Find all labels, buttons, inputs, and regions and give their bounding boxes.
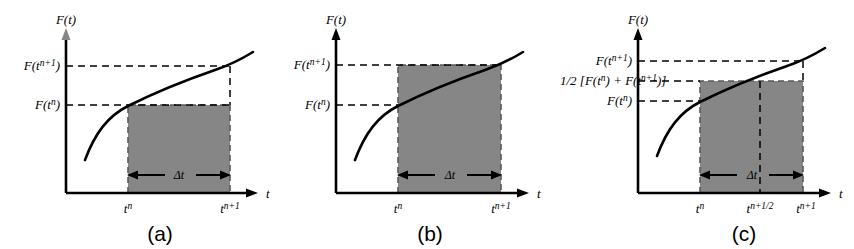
x-axis-title-a: t: [266, 186, 270, 201]
y-label-f-tn1-close-b: ): [325, 57, 330, 72]
y-label-average-close-c: )]: [656, 73, 666, 88]
y-label-f-tn-close-a: ): [55, 97, 60, 112]
y-label-f-tn-a: F(tn): [34, 97, 60, 112]
x-tick-tn1-c: tn+1: [796, 201, 816, 216]
y-label-f-tn-base-c: F(t: [606, 93, 623, 108]
y-axis-title-b: F(t): [325, 12, 346, 27]
y-axis-arrow-b: [332, 28, 341, 40]
x-axis-arrow-b: [517, 189, 529, 198]
y-label-f-tn-b: F(tn): [304, 97, 330, 112]
y-label-f-tn1-close-c: ): [627, 53, 632, 68]
y-label-f-tn1-c: F(tn+1): [595, 53, 632, 68]
x-tick-tn-sup-a: n: [127, 201, 132, 211]
x-axis-arrow-a: [246, 189, 258, 198]
x-tick-tn1-sup-a: n+1: [224, 201, 240, 211]
y-label-f-tn1-b: F(tn+1): [293, 57, 330, 72]
delta-t-label-a: Δt: [173, 168, 185, 182]
x-axis-title-b: t: [537, 186, 541, 201]
y-label-f-tn1-a: F(tn+1): [23, 58, 60, 73]
x-tick-tn-b: tn: [394, 201, 403, 216]
x-tick-tnhalf-c: tn+1/2: [747, 201, 774, 216]
panel-b-implicit-euler: Δt F(t) t F(tn+1) F(tn) tn tn+1 (b): [285, 0, 570, 249]
y-label-average-prefix-c: 1/2 [F(t: [560, 73, 601, 88]
y-label-f-tn1-base-c: F(t: [595, 53, 612, 68]
y-label-f-tn1-sup-a: n+1: [40, 58, 56, 68]
y-label-f-tn-c: F(tn): [606, 93, 632, 108]
y-label-f-tn-base-b: F(t: [304, 97, 321, 112]
y-label-average-sup2-c: n+1: [641, 73, 657, 83]
y-axis-arrow-a: [62, 28, 71, 40]
panel-caption-c: (c): [732, 222, 757, 245]
y-label-f-tn-close-b: ): [325, 97, 330, 112]
panel-caption-b: (b): [417, 222, 443, 245]
x-tick-tn1-sup-b: n+1: [495, 201, 511, 211]
x-tick-tnhalf-sup-c: n+1/2: [750, 201, 774, 211]
x-tick-tn-sup-b: n: [397, 201, 402, 211]
x-tick-tn1-b: tn+1: [491, 201, 511, 216]
y-label-average-c: 1/2 [F(tn) + F(tn+1)]: [560, 73, 666, 88]
y-label-f-tn-close-c: ): [627, 93, 632, 108]
y-label-f-tn1-sup-c: n+1: [612, 53, 628, 63]
y-axis-arrow-c: [634, 28, 643, 40]
y-label-f-tn-base-a: F(t: [34, 97, 51, 112]
figure-three-integration-schemes: Δt F(t) t F(tn+1) F(tn) tn tn+1 (a): [0, 0, 854, 249]
x-tick-tn1-sup-c: n+1: [800, 201, 816, 211]
x-axis-arrow-c: [819, 189, 831, 198]
panel-a-explicit-euler: Δt F(t) t F(tn+1) F(tn) tn tn+1 (a): [0, 0, 285, 249]
panel-caption-a: (a): [147, 222, 173, 245]
y-label-f-tn1-base-b: F(t: [293, 57, 310, 72]
x-tick-tn1-a: tn+1: [220, 201, 240, 216]
y-label-f-tn1-close-a: ): [55, 58, 60, 73]
y-label-f-tn1-sup-b: n+1: [310, 57, 326, 67]
y-label-average-mid-c: ) + F(t: [605, 73, 642, 88]
delta-t-label-c: Δt: [746, 168, 758, 182]
x-tick-tn-a: tn: [124, 201, 133, 216]
y-axis-title-a: F(t): [55, 12, 76, 27]
panel-c-crank-nicolson: Δt F(t) t F(tn+1) 1/2 [F(tn) + F(tn+1)] …: [569, 0, 854, 249]
x-tick-tn-sup-c: n: [699, 201, 704, 211]
y-axis-title-c: F(t): [627, 12, 648, 27]
x-tick-tn-c: tn: [696, 201, 705, 216]
y-label-f-tn1-base-a: F(t: [23, 58, 40, 73]
delta-t-label-b: Δt: [444, 168, 456, 182]
x-axis-title-c: t: [839, 186, 843, 201]
